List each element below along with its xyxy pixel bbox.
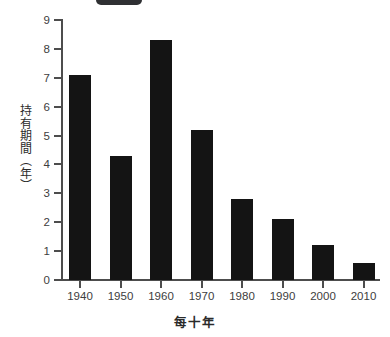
x-axis-tick (201, 281, 203, 288)
y-axis-line (61, 19, 63, 281)
y-axis-tick-label: 9 (32, 14, 50, 26)
y-axis-tick-label: 6 (32, 101, 50, 113)
x-axis-tick (79, 281, 81, 288)
x-axis-tick (241, 281, 243, 288)
y-axis-tick-label: 2 (32, 216, 50, 228)
y-axis-title: 持有期間（年） (10, 104, 30, 192)
x-axis-title: 每十年 (0, 312, 390, 331)
bar (191, 130, 213, 280)
x-axis-tick-label: 1940 (57, 290, 103, 302)
x-axis-tick-label: 1950 (98, 290, 144, 302)
x-axis-tick (120, 281, 122, 288)
y-axis-tick (54, 106, 62, 108)
x-axis-tick (322, 281, 324, 288)
x-axis-tick-label: 1960 (138, 290, 184, 302)
bar (69, 75, 91, 280)
y-axis-tick (54, 19, 62, 21)
y-axis-tick-label: 1 (32, 245, 50, 257)
bar (353, 263, 375, 280)
x-axis-tick (160, 281, 162, 288)
bar (110, 156, 132, 280)
x-axis-tick (363, 281, 365, 288)
bar-chart-figure: 0123456789 19401950196019701980199020002… (0, 0, 390, 337)
y-axis-tick (54, 135, 62, 137)
x-axis-tick-label: 2010 (341, 290, 387, 302)
y-axis-tick (54, 250, 62, 252)
bar (231, 199, 253, 280)
y-axis-tick (54, 192, 62, 194)
y-axis-tick (54, 48, 62, 50)
bar (312, 245, 334, 280)
x-axis-tick-label: 1970 (179, 290, 225, 302)
y-axis-tick (54, 163, 62, 165)
bar (272, 219, 294, 280)
bar (150, 40, 172, 280)
y-axis-tick (54, 221, 62, 223)
x-axis-tick-label: 2000 (300, 290, 346, 302)
y-axis-tick-label: 0 (32, 274, 50, 286)
y-axis-tick-label: 3 (32, 187, 50, 199)
x-axis-tick-label: 1980 (219, 290, 265, 302)
y-axis-tick-label: 7 (32, 72, 50, 84)
y-axis-tick-label: 4 (32, 158, 50, 170)
y-axis-tick (54, 279, 62, 281)
y-axis-tick (54, 77, 62, 79)
x-axis-tick (282, 281, 284, 288)
x-axis-tick-label: 1990 (260, 290, 306, 302)
y-axis-tick-label: 8 (32, 43, 50, 55)
y-axis-tick-label: 5 (32, 130, 50, 142)
